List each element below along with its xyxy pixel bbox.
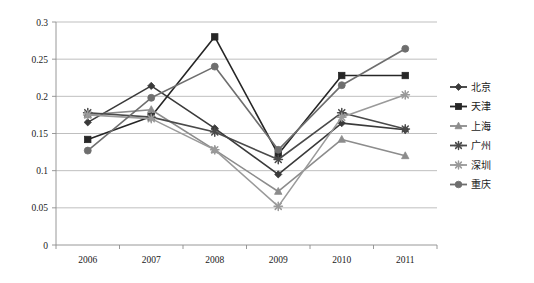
y-axis-tick-labels: 00.050.10.150.20.250.3 xyxy=(31,18,48,251)
legend-item-深圳[interactable]: 深圳 xyxy=(450,160,491,171)
legend-item-重庆[interactable]: 重庆 xyxy=(450,178,491,190)
data-point-marker-triangle xyxy=(338,135,345,142)
data-point-marker-square xyxy=(85,136,91,142)
legend-label: 北京 xyxy=(471,81,491,93)
data-point-marker-square xyxy=(402,72,408,78)
legend-item-北京[interactable]: 北京 xyxy=(450,81,491,93)
series-line xyxy=(88,86,406,174)
data-point-marker-star xyxy=(147,114,155,122)
data-point-marker-square xyxy=(455,103,461,109)
chart-legend: 北京天津上海广州深圳重庆 xyxy=(450,81,491,191)
data-point-marker-star xyxy=(401,91,409,99)
y-tick-label: 0.05 xyxy=(31,203,48,213)
legend-label: 广州 xyxy=(471,140,491,151)
data-point-marker-star xyxy=(84,111,92,119)
x-tick-label: 2010 xyxy=(332,255,351,265)
data-point-marker-star xyxy=(274,202,282,210)
data-point-marker-star xyxy=(455,142,463,150)
y-tick-label: 0.1 xyxy=(36,166,48,176)
data-point-marker-star xyxy=(338,113,346,121)
x-axis-tick-labels: 200620072008200920102011 xyxy=(78,255,415,265)
data-series-group xyxy=(84,34,410,211)
data-point-marker-star xyxy=(401,125,409,133)
y-tick-label: 0 xyxy=(43,241,48,251)
series-line xyxy=(88,49,406,151)
x-tick-label: 2009 xyxy=(269,255,288,265)
data-point-marker-circle xyxy=(455,181,462,188)
legend-item-广州[interactable]: 广州 xyxy=(450,140,491,151)
data-point-marker-star xyxy=(211,128,219,136)
data-point-marker-square xyxy=(339,72,345,78)
series-重庆 xyxy=(84,45,409,154)
line-chart: 00.050.10.150.20.250.3 20062007200820092… xyxy=(0,0,534,283)
data-point-marker-circle xyxy=(148,94,155,101)
legend-label: 天津 xyxy=(471,101,491,112)
legend-label: 深圳 xyxy=(471,160,491,171)
x-tick-label: 2007 xyxy=(142,255,161,265)
x-tick-label: 2008 xyxy=(205,255,224,265)
axes xyxy=(52,22,437,249)
x-tick-label: 2011 xyxy=(396,255,415,265)
data-point-marker-circle xyxy=(84,147,91,154)
data-point-marker-circle xyxy=(275,146,282,153)
data-point-marker-star xyxy=(274,155,282,163)
data-point-marker-star xyxy=(211,146,219,154)
x-tick-label: 2006 xyxy=(78,255,97,265)
data-point-marker-square xyxy=(212,34,218,40)
data-point-marker-circle xyxy=(338,82,345,89)
legend-item-天津[interactable]: 天津 xyxy=(450,101,491,112)
y-tick-label: 0.15 xyxy=(31,129,48,139)
gridlines xyxy=(56,22,437,245)
legend-label: 上海 xyxy=(471,120,491,132)
legend-label: 重庆 xyxy=(471,178,491,190)
data-point-marker-star xyxy=(455,161,463,169)
data-point-marker-diamond xyxy=(455,84,462,91)
legend-item-上海[interactable]: 上海 xyxy=(450,120,491,132)
y-tick-label: 0.2 xyxy=(36,92,48,102)
series-line xyxy=(88,113,406,160)
series-上海 xyxy=(84,106,409,195)
y-tick-label: 0.25 xyxy=(31,55,48,65)
data-point-marker-circle xyxy=(211,63,218,70)
y-tick-label: 0.3 xyxy=(36,18,48,28)
chart-canvas: 00.050.10.150.20.250.3 20062007200820092… xyxy=(0,0,534,283)
data-point-marker-circle xyxy=(402,45,409,52)
